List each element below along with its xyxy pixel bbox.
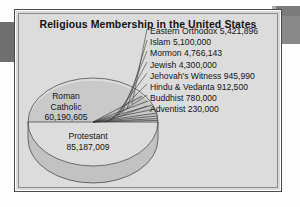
callout-label-list: Eastern Orthodox 5,421,896 Islam 5,100,0…	[150, 26, 300, 116]
pie-label-roman-catholic-line2: Catholic	[20, 102, 112, 113]
callout-mormon: Mormon 4,766,143	[150, 48, 300, 59]
callout-islam: Islam 5,100,000	[150, 37, 300, 48]
callout-hindu-vedanta: Hindu & Vedanta 912,500	[150, 82, 300, 93]
pie-label-protestant-value: 85,187,009	[36, 142, 140, 153]
callout-adventist: Adventist 230,000	[150, 104, 300, 115]
pie-label-protestant-name: Protestant	[36, 131, 140, 142]
pie-label-roman-catholic: Roman Catholic 60,190,605	[20, 91, 112, 123]
figure-root: Religious Membership in the United State…	[0, 0, 300, 207]
callout-eastern-orthodox: Eastern Orthodox 5,421,896	[150, 26, 300, 37]
pie-label-roman-catholic-value: 60,190,605	[20, 112, 112, 123]
callout-jehovahs-witness: Jehovah's Witness 945,990	[150, 71, 300, 82]
pie-label-roman-catholic-line1: Roman	[20, 91, 112, 102]
callout-jewish: Jewish 4,300,000	[150, 60, 300, 71]
callout-buddhist: Buddhist 780,000	[150, 93, 300, 104]
pie-label-protestant: Protestant 85,187,009	[36, 131, 140, 152]
